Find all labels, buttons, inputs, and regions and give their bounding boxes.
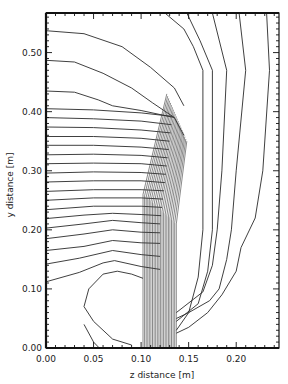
contour-line [46, 198, 163, 200]
contour-line [46, 137, 170, 142]
contour-lines [46, 13, 270, 348]
contour-line [176, 13, 269, 333]
x-axis-title: z distance [m] [130, 370, 194, 380]
contour-plot: 0.000.050.100.150.200.000.100.200.300.40… [0, 0, 288, 384]
y-tick-label: 0.40 [22, 107, 42, 117]
contour-line [46, 118, 172, 125]
contour-line [46, 127, 171, 133]
x-tick-label: 0.20 [226, 354, 246, 364]
contour-line [46, 109, 173, 117]
contour-line [46, 163, 167, 166]
y-axis-title: y distance [m] [5, 153, 15, 218]
contour-line [46, 145, 169, 149]
y-tick-label: 0.10 [22, 284, 42, 294]
contour-line [46, 154, 168, 158]
contour-line [84, 271, 143, 345]
y-tick-label: 0.00 [22, 343, 42, 353]
y-tick-label: 0.50 [22, 48, 42, 58]
contour-line [84, 324, 99, 348]
y-tick-label: 0.30 [22, 166, 42, 176]
contour-line [46, 31, 184, 106]
x-tick-label: 0.05 [84, 354, 104, 364]
x-tick-label: 0.00 [36, 354, 56, 364]
contour-line [46, 213, 161, 218]
y-tick-label: 0.20 [22, 225, 42, 235]
contour-line [176, 13, 212, 321]
x-tick-label: 0.15 [179, 354, 199, 364]
x-tick-label: 0.10 [131, 354, 151, 364]
contour-line [46, 181, 165, 183]
